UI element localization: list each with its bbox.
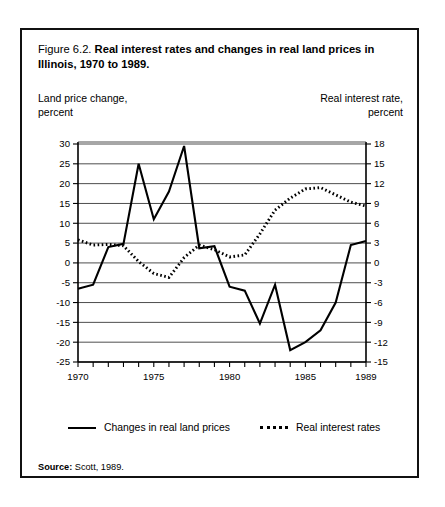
legend-item-interest-rates: Real interest rates — [260, 422, 380, 433]
right-tick-label: -12 — [374, 337, 388, 348]
left-tick-label: 10 — [59, 218, 70, 229]
x-tick-label: 1975 — [143, 371, 164, 382]
left-tick-label: 30 — [59, 138, 70, 149]
right-tick-label: -15 — [374, 356, 388, 367]
left-tick-label: -25 — [56, 356, 70, 367]
dotted-line-swatch-icon — [260, 426, 288, 429]
left-tick-label: -20 — [56, 337, 70, 348]
right-axis-title: Real interest rate, percent — [320, 92, 403, 119]
source-note: Source: Scott, 1989. — [38, 462, 124, 472]
x-tick-label: 1970 — [67, 371, 88, 382]
plot-area: 302520151050-5-10-15-20-25 1815129630-3-… — [34, 134, 409, 394]
right-axis-title-line2: percent — [320, 106, 403, 120]
x-tick-label: 1985 — [295, 371, 316, 382]
left-tick-label: -5 — [61, 277, 70, 288]
left-axis-title: Land price change, percent — [38, 92, 127, 119]
left-axis-title-line2: percent — [38, 106, 127, 120]
right-tick-label: 9 — [374, 198, 379, 209]
right-axis-title-line1: Real interest rate, — [320, 92, 403, 106]
data-series — [78, 146, 366, 350]
left-tick-label: 5 — [65, 237, 70, 248]
legend-label-interest-rates: Real interest rates — [296, 422, 380, 433]
x-tick-label: 1980 — [219, 371, 240, 382]
chart-legend: Changes in real land prices Real interes… — [22, 422, 421, 444]
left-axis-title-line1: Land price change, — [38, 92, 127, 106]
figure-number: Figure 6.2. — [38, 43, 91, 55]
source-label: Source: — [38, 462, 72, 472]
right-tick-label: 3 — [374, 237, 379, 248]
left-tick-label: -15 — [56, 317, 70, 328]
figure-frame: Figure 6.2. Real interest rates and chan… — [20, 28, 419, 478]
grid-lines — [78, 144, 366, 362]
left-tick-label: -10 — [56, 297, 70, 308]
x-axis-tick-labels: 19701975198019851989 — [67, 371, 376, 382]
right-tick-label: 6 — [374, 218, 379, 229]
legend-item-land-prices: Changes in real land prices — [68, 422, 230, 433]
axis-ticks — [73, 144, 371, 367]
left-axis-tick-labels: 302520151050-5-10-15-20-25 — [56, 138, 70, 367]
right-tick-label: 18 — [374, 138, 385, 149]
left-tick-label: 0 — [65, 257, 70, 268]
right-axis-tick-labels: 1815129630-3-6-9-12-15 — [374, 138, 388, 367]
left-tick-label: 25 — [59, 158, 70, 169]
right-tick-label: 12 — [374, 178, 385, 189]
series-land-prices — [78, 146, 366, 350]
right-tick-label: 0 — [374, 257, 379, 268]
figure-title: Figure 6.2. Real interest rates and chan… — [38, 42, 398, 72]
left-tick-label: 15 — [59, 198, 70, 209]
legend-label-land-prices: Changes in real land prices — [104, 422, 230, 433]
right-tick-label: -3 — [374, 277, 383, 288]
right-tick-label: -9 — [374, 317, 383, 328]
source-text: Scott, 1989. — [75, 462, 124, 472]
right-tick-label: 15 — [374, 158, 385, 169]
axis-frame — [78, 142, 366, 362]
right-tick-label: -6 — [374, 297, 383, 308]
solid-line-swatch-icon — [68, 427, 96, 429]
line-chart: 302520151050-5-10-15-20-25 1815129630-3-… — [34, 134, 409, 394]
x-tick-label: 1989 — [355, 371, 376, 382]
left-tick-label: 20 — [59, 178, 70, 189]
